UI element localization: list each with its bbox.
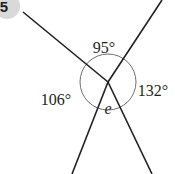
- angle-top-label: 95°: [93, 39, 115, 56]
- question-number: 5: [0, 0, 8, 15]
- angle-left-label: 106°: [41, 91, 71, 108]
- angle-bottom-label: e: [104, 100, 111, 117]
- angle-diagram: 5 95° 132° 106° e: [0, 0, 175, 174]
- ray-upper-right: [108, 0, 162, 82]
- diagram-canvas: 5 95° 132° 106° e: [0, 0, 175, 174]
- question-number-badge: 5: [0, 0, 20, 19]
- angle-right-label: 132°: [138, 82, 168, 99]
- ray-lower-left: [72, 82, 108, 174]
